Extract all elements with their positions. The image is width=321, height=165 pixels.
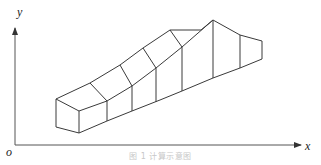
bottom-edge [79,59,262,133]
top-ridge [56,20,262,99]
y-axis-label: y [17,5,22,20]
divider-top-3 [143,48,156,68]
wireframe-body [56,20,262,133]
divider-top-2 [120,65,132,86]
diagram-canvas [0,0,321,165]
divider-top-4 [170,30,182,47]
figure-caption: 图 1 计算示意图 [0,150,321,161]
inner-ridge [79,20,213,111]
divider-top-1 [90,83,107,101]
front-face [56,99,79,133]
